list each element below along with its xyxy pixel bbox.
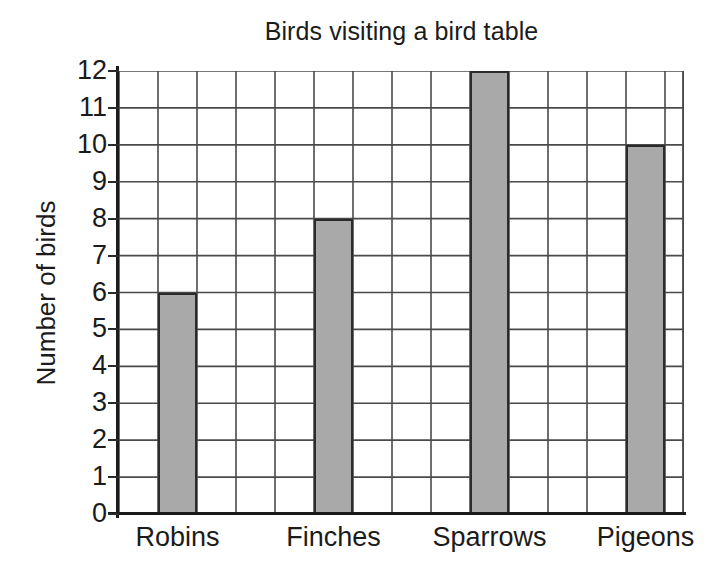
- y-axis-label-text: Number of birds: [31, 200, 61, 385]
- y-tick-label: 12: [61, 57, 107, 84]
- x-axis-label-sparrows: Sparrows: [400, 521, 580, 553]
- y-tick-label: 11: [61, 94, 107, 121]
- y-tick-label: 6: [61, 279, 107, 306]
- chart-title: Birds visiting a bird table: [119, 16, 684, 46]
- y-tick-mark: [108, 144, 119, 146]
- y-tick-mark: [108, 255, 119, 257]
- y-tick-mark: [108, 328, 119, 330]
- bar-pigeons: [626, 145, 665, 514]
- x-axis-line: [108, 512, 686, 515]
- y-tick-label: 3: [61, 389, 107, 416]
- bar-sparrows: [470, 71, 509, 514]
- y-tick-mark: [108, 218, 119, 220]
- y-tick-mark: [108, 513, 119, 515]
- y-tick-mark: [108, 70, 119, 72]
- x-axis-label-robins: Robins: [88, 521, 268, 553]
- y-tick-mark: [108, 181, 119, 183]
- y-tick-mark: [108, 476, 119, 478]
- plot-area: [119, 71, 684, 514]
- y-tick-label: 5: [61, 315, 107, 342]
- y-tick-mark: [108, 439, 119, 441]
- y-tick-label: 9: [61, 168, 107, 195]
- bar-chart: Birds visiting a bird table Number of bi…: [0, 0, 715, 580]
- y-tick-mark: [108, 402, 119, 404]
- y-tick-label: 4: [61, 352, 107, 379]
- y-tick-label: 1: [61, 463, 107, 490]
- y-tick-mark: [108, 292, 119, 294]
- x-axis-label-pigeons: Pigeons: [556, 521, 715, 553]
- y-tick-label: 2: [61, 426, 107, 453]
- y-tick-mark: [108, 365, 119, 367]
- y-tick-label: 10: [61, 131, 107, 158]
- bar-robins: [158, 293, 197, 515]
- y-tick-label: 7: [61, 242, 107, 269]
- bar-finches: [314, 219, 353, 514]
- grid-lines: [119, 71, 684, 514]
- y-axis-label: Number of birds: [28, 71, 64, 514]
- y-tick-label: 8: [61, 205, 107, 232]
- y-tick-mark: [108, 107, 119, 109]
- x-axis-label-finches: Finches: [244, 521, 424, 553]
